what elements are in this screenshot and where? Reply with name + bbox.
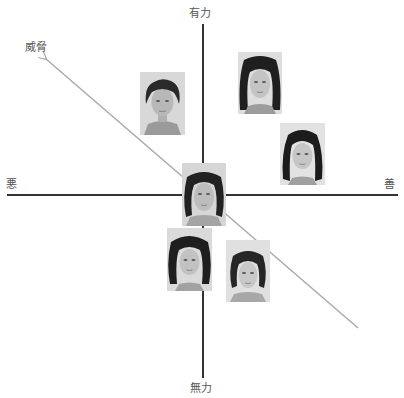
face-portrait-icon <box>280 123 325 185</box>
face-photo-4 <box>182 163 226 226</box>
axis-label-top: 有力 <box>189 8 211 19</box>
face-portrait-icon <box>226 240 270 302</box>
face-photo-6 <box>226 240 270 302</box>
threat-label: 威脅 <box>25 42 47 53</box>
axis-label-right: 善 <box>384 179 395 190</box>
face-portrait-icon <box>182 163 226 226</box>
face-photo-2 <box>238 52 282 114</box>
face-photo-3 <box>280 123 325 185</box>
face-portrait-icon <box>238 52 282 114</box>
face-space-diagram: 有力 無力 悪 善 威脅 <box>0 0 404 398</box>
axis-label-left: 悪 <box>6 179 17 190</box>
face-photo-5 <box>167 228 212 291</box>
face-photo-1 <box>140 72 185 135</box>
face-portrait-icon <box>140 72 185 135</box>
axis-label-bottom: 無力 <box>190 383 212 394</box>
face-portrait-icon <box>167 228 212 291</box>
